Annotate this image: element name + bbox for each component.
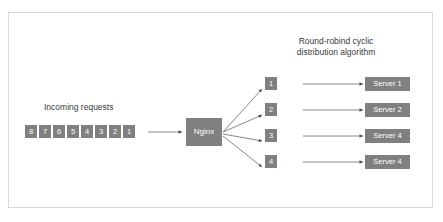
server-node: Server 4: [365, 155, 410, 169]
queue-cell: 7: [39, 125, 51, 138]
server-node: Server 4: [365, 129, 410, 143]
queue-cell: 6: [53, 125, 65, 138]
distribution-cell: 4: [265, 155, 277, 168]
algorithm-title-line-1: Round-robind cyclic: [286, 36, 386, 47]
queue-cell: 1: [123, 125, 135, 138]
diagram-canvas: Round-robind cyclic distribution algorit…: [0, 0, 443, 222]
incoming-requests-label: Incoming requests: [44, 102, 113, 112]
queue-cell: 2: [109, 125, 121, 138]
distribution-cell: 1: [265, 77, 277, 90]
distribution-cell: 3: [265, 129, 277, 142]
algorithm-title: Round-robind cyclic distribution algorit…: [286, 36, 386, 59]
server-node: Server 1: [365, 77, 410, 91]
algorithm-title-line-2: distribution algorithm: [286, 47, 386, 58]
queue-cell: 4: [81, 125, 93, 138]
distribution-cell: 2: [265, 103, 277, 116]
nginx-node: Nginx: [186, 118, 222, 146]
server-node: Server 2: [365, 103, 410, 117]
queue-cell: 8: [25, 125, 37, 138]
queue-cell: 3: [95, 125, 107, 138]
queue-cell: 5: [67, 125, 79, 138]
incoming-request-queue: 8 7 6 5 4 3 2 1: [25, 125, 135, 138]
